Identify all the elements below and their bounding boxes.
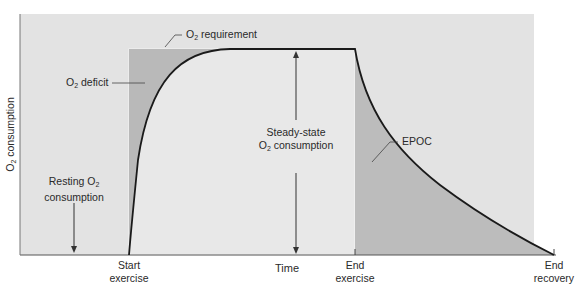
end-exercise-label: Endexercise [325,259,385,285]
o2-deficit-label: O2 deficit [66,76,108,92]
o2-requirement-label: O2 requirement [186,28,257,44]
end-recovery-label: Endrecovery [524,259,581,285]
resting-consumption-label: Resting O2consumption [36,175,112,204]
y-axis-label: O2 consumption [4,85,17,185]
steady-state-label: Steady-stateO2 consumption [250,126,342,155]
epoc-label: EPOC [402,135,432,148]
start-exercise-label: Startexercise [99,259,159,285]
x-axis-label: Time [275,262,299,274]
